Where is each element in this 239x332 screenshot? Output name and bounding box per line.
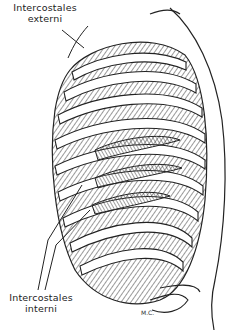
ribcage-illustration — [0, 0, 239, 332]
